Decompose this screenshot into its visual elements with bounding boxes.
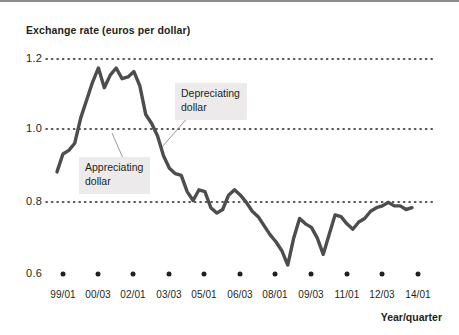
- annotation-appreciating-line1: Appreciating: [85, 161, 143, 175]
- y-tick-label-1.0: 1.0: [14, 122, 42, 134]
- x-tick-label-0801: 08/01: [255, 289, 295, 300]
- x-tick-label-0903: 09/03: [291, 289, 331, 300]
- x-axis-title: Year/quarter: [381, 311, 442, 323]
- x-tick-dot: [309, 272, 314, 277]
- x-tick-label-0501: 05/01: [184, 289, 224, 300]
- x-tick-label-0003: 00/03: [78, 289, 118, 300]
- x-tick-dot: [238, 272, 243, 277]
- y-tick-label-1.2: 1.2: [14, 52, 42, 64]
- y-tick-label-0.6: 0.6: [14, 267, 42, 279]
- annotation-depreciating-dollar: Depreciating dollar: [175, 83, 247, 120]
- x-tick-dot: [416, 272, 421, 277]
- x-tick-label-1203: 12/03: [362, 289, 402, 300]
- x-tick-dot: [61, 272, 66, 277]
- x-tick-label-1401: 14/01: [398, 289, 438, 300]
- x-tick-dot: [131, 272, 136, 277]
- depreciating-leader-line: [162, 115, 190, 147]
- x-tick-label-0303: 03/03: [149, 289, 189, 300]
- x-tick-dot: [96, 272, 101, 277]
- x-tick-label-1101: 11/01: [327, 289, 367, 300]
- x-axis-tick-dots: [61, 272, 421, 277]
- x-tick-dot: [345, 272, 350, 277]
- chart-plot-area: [0, 2, 459, 335]
- x-tick-label-0201: 02/01: [113, 289, 153, 300]
- x-tick-dot: [202, 272, 207, 277]
- chart-figure: Exchange rate (euros per dollar) A: [0, 0, 459, 335]
- x-tick-label-0603: 06/03: [220, 289, 260, 300]
- x-tick-dot: [380, 272, 385, 277]
- annotation-depreciating-line2: dollar: [181, 101, 240, 115]
- x-tick-dot: [167, 272, 172, 277]
- x-tick-dot: [273, 272, 278, 277]
- annotation-appreciating-line2: dollar: [85, 175, 143, 189]
- annotation-depreciating-line1: Depreciating: [181, 87, 240, 101]
- annotation-appreciating-dollar: Appreciating dollar: [79, 157, 150, 194]
- y-tick-label-0.8: 0.8: [14, 195, 42, 207]
- x-tick-label-9901: 99/01: [43, 289, 83, 300]
